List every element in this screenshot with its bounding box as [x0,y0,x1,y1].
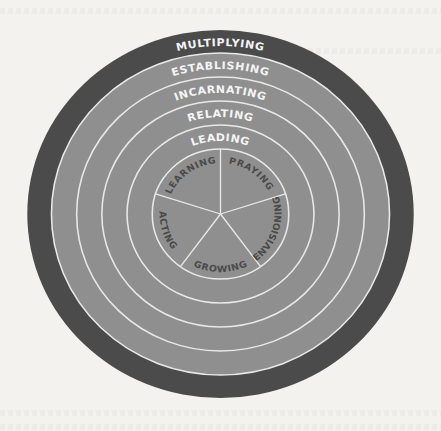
concentric-circle-diagram: MULTIPLYING ESTABLISHING INCARNATING REL… [0,0,441,431]
page: MULTIPLYING ESTABLISHING INCARNATING REL… [0,0,441,431]
